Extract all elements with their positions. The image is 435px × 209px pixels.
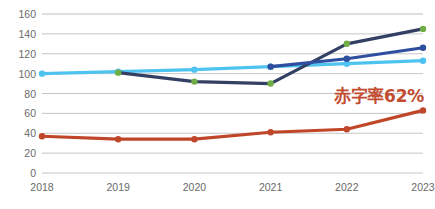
data-point-marker bbox=[420, 45, 426, 51]
data-point-marker bbox=[344, 126, 350, 132]
data-point-marker bbox=[420, 58, 426, 64]
data-point-marker bbox=[267, 80, 273, 86]
chart-title bbox=[0, 0, 427, 4]
y-tick-label: 40 bbox=[4, 127, 36, 139]
data-point-marker bbox=[344, 41, 350, 47]
data-point-marker bbox=[115, 69, 121, 75]
y-tick-label: 80 bbox=[4, 88, 36, 100]
y-tick-label: 120 bbox=[4, 48, 36, 60]
data-point-marker bbox=[115, 136, 121, 142]
x-tick-label: 2021 bbox=[259, 181, 282, 193]
data-point-marker bbox=[420, 26, 426, 32]
y-tick-label: 0 bbox=[4, 167, 36, 179]
data-point-marker bbox=[191, 78, 197, 84]
data-point-marker bbox=[39, 70, 45, 76]
y-tick-label: 140 bbox=[4, 28, 36, 40]
y-tick-label: 160 bbox=[4, 8, 36, 20]
data-point-marker bbox=[39, 133, 45, 139]
deficit-rate-annotation: 赤字率62% bbox=[334, 82, 424, 107]
data-point-marker bbox=[191, 66, 197, 72]
data-point-marker bbox=[191, 136, 197, 142]
data-point-marker bbox=[420, 107, 426, 113]
data-point-marker bbox=[267, 63, 273, 69]
data-point-marker bbox=[344, 56, 350, 62]
x-tick-label: 2022 bbox=[335, 181, 358, 193]
y-tick-label: 20 bbox=[4, 147, 36, 159]
y-tick-label: 100 bbox=[4, 68, 36, 80]
series-line bbox=[42, 110, 423, 139]
y-tick-label: 60 bbox=[4, 107, 36, 119]
series-line bbox=[42, 61, 423, 74]
x-tick-label: 2023 bbox=[411, 181, 434, 193]
x-tick-label: 2019 bbox=[107, 181, 130, 193]
x-tick-label: 2018 bbox=[30, 181, 53, 193]
series-line bbox=[118, 29, 423, 84]
series-red-series bbox=[39, 107, 426, 142]
x-tick-label: 2020 bbox=[183, 181, 206, 193]
series-navy-green-marker-series bbox=[115, 26, 426, 87]
data-point-marker bbox=[267, 129, 273, 135]
